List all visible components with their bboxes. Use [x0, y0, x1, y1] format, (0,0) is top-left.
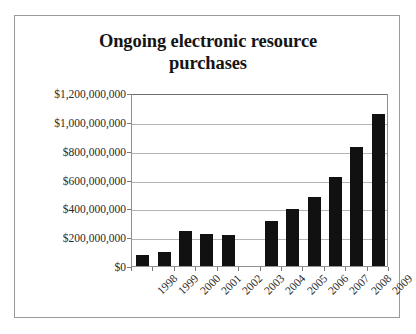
x-axis-tick-label: 1999 — [176, 272, 201, 297]
x-axis-tick-label: 1998 — [155, 272, 180, 297]
bar — [350, 147, 363, 266]
bar — [136, 255, 149, 266]
x-axis-tick-label: 2009 — [390, 272, 415, 297]
x-axis-tick-label: 2004 — [283, 272, 308, 297]
bar — [286, 209, 299, 266]
bar — [158, 252, 171, 266]
y-axis-tick-label: $600,000,000 — [26, 175, 126, 187]
x-axis-tick-mark — [302, 267, 303, 271]
bar — [265, 221, 278, 266]
plot-area — [131, 94, 388, 267]
y-axis-tick-label: $400,000,000 — [26, 203, 126, 215]
bar — [222, 235, 235, 266]
x-axis-tick-label: 2002 — [240, 272, 265, 297]
x-axis-tick-label: 2007 — [347, 272, 372, 297]
x-axis-tick-label: 2000 — [198, 272, 223, 297]
x-axis-tick-label: 2005 — [305, 272, 330, 297]
bar — [308, 197, 321, 266]
chart-title-line-2: purchases — [169, 53, 247, 73]
x-axis-tick-marks — [131, 267, 388, 271]
x-axis-tick-mark — [367, 267, 368, 271]
bar — [329, 177, 342, 266]
x-axis-tick-mark — [260, 267, 261, 271]
chart-title: Ongoing electronic resource purchases — [33, 30, 383, 74]
x-axis-tick-label: 2006 — [326, 272, 351, 297]
bar — [179, 231, 192, 266]
y-axis-tick-label: $1,200,000,000 — [26, 88, 126, 100]
x-axis-tick-label: 2003 — [262, 272, 287, 297]
x-axis-tick-mark — [195, 267, 196, 271]
x-axis-tick-mark — [152, 267, 153, 271]
y-axis-tick-label: $200,000,000 — [26, 232, 126, 244]
y-axis-tick-labels: $0$200,000,000$400,000,000$600,000,000$8… — [20, 94, 126, 267]
x-axis-tick-mark — [131, 267, 132, 271]
x-axis-tick-mark — [281, 267, 282, 271]
x-axis-tick-labels: 1998199920002001200220032004200520062007… — [131, 272, 401, 318]
bar — [372, 114, 385, 266]
x-axis-tick-label: 2001 — [219, 272, 244, 297]
x-axis-tick-mark — [324, 267, 325, 271]
x-axis-tick-mark — [388, 267, 389, 271]
y-axis-tick-label: $800,000,000 — [26, 146, 126, 158]
y-axis-tick-label: $1,000,000,000 — [26, 117, 126, 129]
chart-title-line-1: Ongoing electronic resource — [99, 31, 317, 51]
x-axis-tick-mark — [345, 267, 346, 271]
x-axis-tick-mark — [217, 267, 218, 271]
x-axis-tick-label: 2008 — [369, 272, 394, 297]
bar — [200, 234, 213, 266]
bar-series — [132, 95, 387, 266]
x-axis-tick-mark — [174, 267, 175, 271]
y-axis-tick-label: $0 — [26, 261, 126, 273]
chart-figure-card: Ongoing electronic resource purchases $0… — [14, 15, 400, 318]
x-axis-tick-mark — [238, 267, 239, 271]
